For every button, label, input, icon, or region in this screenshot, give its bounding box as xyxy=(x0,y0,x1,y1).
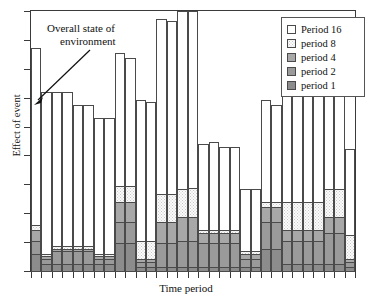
bar-segment xyxy=(219,147,229,231)
x-axis-tick xyxy=(156,272,157,278)
bar-column xyxy=(156,11,166,272)
bar-segment xyxy=(188,267,198,272)
bar-segment xyxy=(73,251,83,264)
bar-segment xyxy=(230,267,240,272)
bar-segment xyxy=(251,267,261,272)
x-axis-tick xyxy=(125,272,126,278)
bar-segment xyxy=(303,230,313,240)
bar-segment xyxy=(334,233,344,264)
x-axis-tick xyxy=(250,272,251,278)
bar-segment xyxy=(198,267,208,272)
legend-item-label: Period 16 xyxy=(301,24,342,35)
bar-column xyxy=(125,11,135,272)
x-axis-tick xyxy=(167,272,168,278)
x-axis-tick xyxy=(303,272,304,278)
bar-segment xyxy=(324,189,334,218)
x-axis-tick xyxy=(115,272,116,278)
bar-segment xyxy=(41,264,51,272)
bar-segment xyxy=(271,207,281,223)
bar-segment xyxy=(313,264,323,272)
chart-figure: Effect of event Time period Overall stat… xyxy=(0,0,372,304)
y-axis-tick xyxy=(24,11,31,12)
bar-segment xyxy=(188,217,198,241)
bar-segment xyxy=(261,222,271,248)
x-axis-tick xyxy=(240,272,241,278)
bar-segment xyxy=(219,233,229,243)
bar-segment xyxy=(156,267,166,272)
bar-segment xyxy=(240,267,250,272)
bar-segment xyxy=(282,264,292,272)
bar-column xyxy=(104,11,114,272)
bar-segment xyxy=(240,189,250,252)
bar-segment xyxy=(261,207,271,223)
bar-segment xyxy=(292,241,302,264)
x-axis-tick xyxy=(345,272,346,278)
x-axis-tick xyxy=(198,272,199,278)
bar-segment xyxy=(282,241,292,264)
bar-segment xyxy=(303,264,313,272)
bar-segment xyxy=(271,249,281,272)
y-axis-tick xyxy=(24,155,31,156)
bar-segment xyxy=(209,243,219,266)
legend-item[interactable]: period 4 xyxy=(287,50,359,64)
bar-segment xyxy=(334,217,344,233)
bar-segment xyxy=(282,230,292,240)
y-axis-tick xyxy=(24,242,31,243)
bar-segment xyxy=(198,233,208,243)
bar-segment xyxy=(313,241,323,264)
bar-segment xyxy=(167,267,177,272)
chart-legend: Period 16period 8period 4period 2period … xyxy=(281,17,365,97)
bar-segment xyxy=(177,11,187,189)
bar-segment xyxy=(177,241,187,267)
annotation-arrow-icon xyxy=(28,45,98,115)
bar-segment xyxy=(136,100,146,241)
bar-segment xyxy=(146,102,156,240)
bar-column xyxy=(219,11,229,272)
bar-segment xyxy=(177,217,187,241)
bar-segment xyxy=(188,11,198,188)
bar-segment xyxy=(125,222,135,243)
bar-column xyxy=(188,11,198,272)
bar-segment xyxy=(52,92,62,246)
bar-segment xyxy=(62,251,72,264)
bar-segment xyxy=(345,149,355,235)
y-axis-tick xyxy=(24,184,31,185)
x-axis-tick xyxy=(230,272,231,278)
bar-segment xyxy=(125,58,135,186)
bar-segment xyxy=(209,267,219,272)
bar-segment xyxy=(177,267,187,272)
legend-item[interactable]: period 1 xyxy=(287,78,359,92)
bar-column xyxy=(261,11,271,272)
legend-item[interactable]: Period 16 xyxy=(287,22,359,36)
gray-swatch xyxy=(287,67,296,76)
bar-segment xyxy=(31,254,41,272)
bar-segment xyxy=(94,118,104,254)
bar-segment xyxy=(52,251,62,264)
y-axis-tick xyxy=(24,40,31,41)
bar-column xyxy=(251,11,261,272)
bar-segment xyxy=(313,202,323,231)
bar-segment xyxy=(62,264,72,272)
bar-segment xyxy=(167,194,177,223)
bar-segment xyxy=(41,92,51,254)
dotted-swatch xyxy=(287,39,296,48)
bar-segment xyxy=(73,105,83,246)
bar-segment xyxy=(31,230,41,240)
gray-swatch xyxy=(287,81,296,90)
bar-segment xyxy=(271,222,281,248)
bar-segment xyxy=(156,194,166,223)
bar-segment xyxy=(125,202,135,223)
bar-segment xyxy=(115,222,125,243)
bar-segment xyxy=(146,267,156,272)
legend-item[interactable]: period 2 xyxy=(287,64,359,78)
bar-segment xyxy=(324,233,334,264)
x-axis-tick xyxy=(62,272,63,278)
y-axis-tick xyxy=(24,271,31,272)
x-axis-tick xyxy=(334,272,335,278)
bar-segment xyxy=(156,222,166,243)
white-swatch xyxy=(287,25,296,34)
bar-segment xyxy=(115,243,125,272)
legend-item[interactable]: period 8 xyxy=(287,36,359,50)
bar-segment xyxy=(303,241,313,264)
bar-segment xyxy=(251,259,261,267)
